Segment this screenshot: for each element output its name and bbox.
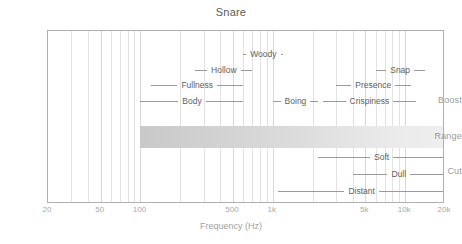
band-line-right (379, 191, 444, 192)
band-label: Distant (344, 187, 378, 196)
x-tick-20k: 20k (438, 205, 451, 214)
band-line-left (323, 101, 345, 102)
x-tick-50: 50 (95, 205, 104, 214)
x-tick-5k: 5k (360, 205, 368, 214)
band-line-left (336, 85, 351, 86)
gridline (233, 31, 234, 202)
band-line-right (414, 70, 424, 71)
gridline (313, 31, 314, 202)
gridline (399, 31, 400, 202)
gridline (252, 31, 253, 202)
band-label: Boing (281, 97, 311, 106)
range-band (140, 126, 444, 148)
band-line-right (281, 54, 284, 55)
y-axis-label-range: Range (420, 131, 462, 141)
frequency-band: Woody (243, 48, 283, 60)
frequency-chart: Snare WoodyHollowSnapFullnessPresenceBod… (0, 0, 462, 244)
frequency-band: Snap (376, 64, 425, 76)
gridline (111, 31, 112, 202)
gridline (376, 31, 377, 202)
gridline (220, 31, 221, 202)
frequency-band: Boing (273, 95, 318, 107)
x-tick-10k: 10k (398, 205, 411, 214)
band-line-left (278, 191, 344, 192)
band-line-right (393, 157, 444, 158)
band-label: Presence (351, 81, 395, 90)
gridline (267, 31, 268, 202)
frequency-band: Crispiness (323, 95, 415, 107)
gridline (405, 31, 406, 202)
band-line-right (310, 101, 318, 102)
band-line-left (140, 101, 178, 102)
y-axis-label-cut: Cut (420, 166, 462, 176)
x-axis-title: Frequency (Hz) (0, 221, 462, 231)
band-line-left (195, 70, 207, 71)
chart-title: Snare (0, 6, 462, 18)
band-label: Fullness (177, 81, 217, 90)
band-line-right (206, 101, 244, 102)
gridline (88, 31, 89, 202)
gridline (243, 31, 244, 202)
plot-area: WoodyHollowSnapFullnessPresenceBodyBoing… (47, 30, 444, 203)
frequency-band: Soft (318, 151, 444, 163)
gridline (180, 31, 181, 202)
gridline (204, 31, 205, 202)
x-tick-500: 500 (225, 205, 238, 214)
gridline (140, 31, 141, 202)
x-tick-20: 20 (43, 205, 52, 214)
frequency-band: Fullness (151, 79, 243, 91)
band-line-right (395, 85, 410, 86)
band-label: Soft (370, 153, 393, 162)
band-line-left (318, 157, 370, 158)
band-label: Hollow (207, 66, 241, 75)
band-label: Snap (386, 66, 414, 75)
band-line-left (151, 85, 177, 86)
gridline (134, 31, 135, 202)
gridline (101, 31, 102, 202)
gridline (128, 31, 129, 202)
gridline (71, 31, 72, 202)
gridline (385, 31, 386, 202)
gridline (336, 31, 337, 202)
band-line-left (273, 101, 281, 102)
x-tick-1k: 1k (268, 205, 276, 214)
gridline (353, 31, 354, 202)
gridline (120, 31, 121, 202)
band-label: Body (178, 97, 205, 106)
gridline (273, 31, 274, 202)
gridline (392, 31, 393, 202)
y-axis-label-boost: Boost (420, 95, 462, 105)
x-tick-100: 100 (133, 205, 146, 214)
gridline (260, 31, 261, 202)
frequency-band: Distant (278, 185, 444, 197)
gridline (365, 31, 366, 202)
band-line-right (241, 70, 253, 71)
band-line-left (353, 174, 388, 175)
frequency-band: Body (140, 95, 243, 107)
